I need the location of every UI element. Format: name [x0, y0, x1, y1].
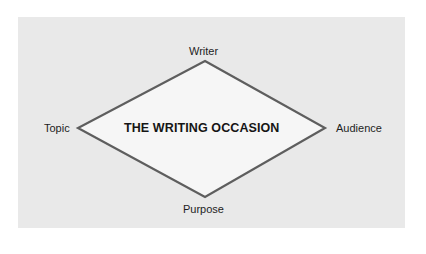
node-writer: Writer	[189, 45, 218, 57]
diagram-title: THE WRITING OCCASION	[124, 121, 279, 135]
node-audience: Audience	[336, 122, 382, 134]
node-topic: Topic	[44, 122, 70, 134]
node-purpose: Purpose	[183, 203, 224, 215]
